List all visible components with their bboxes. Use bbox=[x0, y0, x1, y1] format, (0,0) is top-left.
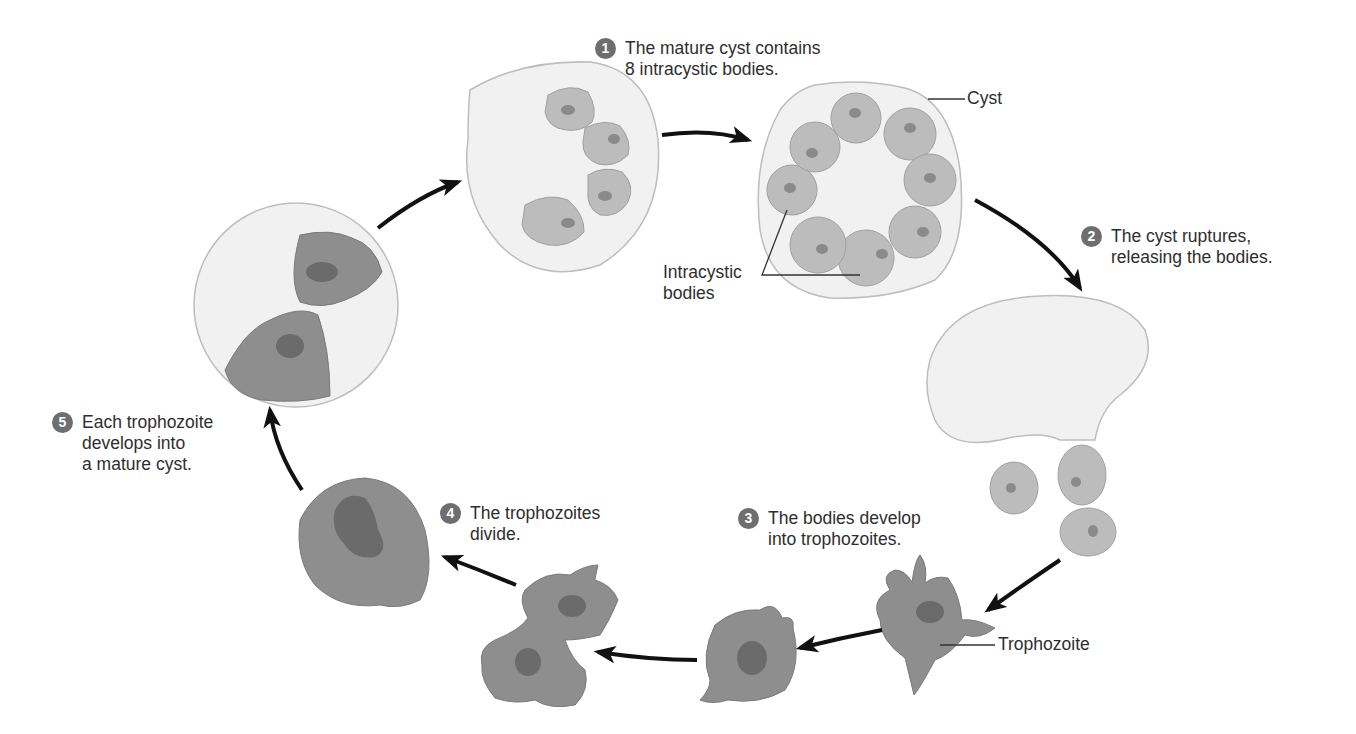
trophozoite-label: Trophozoite bbox=[998, 634, 1090, 655]
arrow-5-to-1 bbox=[378, 182, 458, 228]
arrow-1a-to-1 bbox=[662, 132, 748, 140]
encysting-trophozoite bbox=[299, 478, 429, 607]
step-badge: 2 bbox=[1081, 226, 1102, 247]
mature-cyst bbox=[758, 82, 965, 298]
step-text: The cyst ruptures, releasing the bodies. bbox=[1111, 226, 1273, 268]
step-5: 5 Each trophozoite develops into a matur… bbox=[52, 412, 213, 475]
arrow-troph-to-4 bbox=[598, 652, 697, 660]
step-text: The mature cyst contains 8 intracystic b… bbox=[625, 38, 821, 80]
step-3: 3 The bodies develop into trophozoites. bbox=[738, 508, 921, 550]
step-text: Each trophozoite develops into a mature … bbox=[82, 412, 213, 475]
intracystic-bodies-label: Intracystic bodies bbox=[663, 262, 742, 304]
step-badge: 3 bbox=[738, 508, 759, 529]
trophozoite-spiky bbox=[877, 555, 995, 695]
ruptured-cyst bbox=[927, 296, 1148, 556]
step-4: 4 The trophozoites divide. bbox=[440, 503, 600, 545]
developing-cyst bbox=[194, 203, 398, 407]
life-cycle-diagram bbox=[0, 0, 1356, 734]
step-1: 1 The mature cyst contains 8 intracystic… bbox=[595, 38, 821, 80]
young-cyst bbox=[467, 62, 659, 272]
step-text: The trophozoites divide. bbox=[470, 503, 600, 545]
step-text: The bodies develop into trophozoites. bbox=[768, 508, 921, 550]
arrow-3-to-troph bbox=[800, 630, 882, 648]
cyst-label: Cyst bbox=[967, 88, 1002, 109]
trophozoite-round bbox=[700, 606, 796, 702]
step-2: 2 The cyst ruptures, releasing the bodie… bbox=[1081, 226, 1273, 268]
step-badge: 4 bbox=[440, 503, 461, 524]
dividing-trophozoites bbox=[481, 565, 618, 707]
arrow-1-to-2 bbox=[975, 200, 1080, 288]
step-badge: 5 bbox=[52, 412, 73, 433]
arrow-encyst-to-5 bbox=[270, 410, 302, 490]
step-badge: 1 bbox=[595, 38, 616, 59]
arrow-2-to-3 bbox=[988, 560, 1060, 610]
arrow-4-to-encyst bbox=[445, 557, 516, 585]
